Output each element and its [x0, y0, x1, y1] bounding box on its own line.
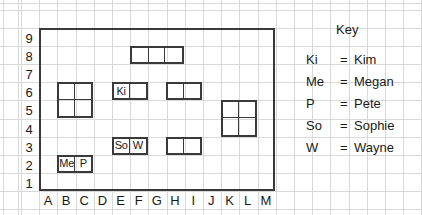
ship-cell[interactable] — [239, 118, 255, 134]
legend-name: Kim — [354, 52, 376, 67]
legend-entry-pete: P=Pete — [306, 96, 381, 114]
y-axis-label-9: 9 — [20, 31, 38, 46]
x-axis-label-J: J — [202, 193, 220, 208]
ship-cell[interactable] — [239, 102, 255, 118]
legend-name: Wayne — [354, 140, 394, 155]
legend-name: Pete — [354, 96, 381, 111]
legend-abbr: Ki — [306, 52, 340, 67]
ship-cell[interactable] — [168, 139, 184, 153]
legend-equals-sign: = — [340, 140, 354, 155]
ship-row6-hi[interactable] — [166, 82, 202, 100]
ship-cell[interactable] — [75, 100, 91, 116]
ship-cell[interactable] — [223, 102, 239, 118]
ship-cell[interactable]: P — [75, 157, 91, 171]
battleship-grid-worksheet: 987654321 ABCDEFGHIJKLM KiSoWMeP Key Ki=… — [0, 0, 422, 215]
legend-abbr: Me — [306, 74, 340, 89]
ship-row2-bc-megan-pete[interactable]: MeP — [57, 155, 93, 173]
y-axis-label-1: 1 — [20, 176, 38, 191]
legend-name: Megan — [354, 74, 394, 89]
ship-bc-56[interactable] — [57, 82, 93, 118]
legend-entry-megan: Me=Megan — [306, 74, 394, 92]
x-axis-label-L: L — [239, 193, 257, 208]
ship-cell[interactable] — [184, 84, 200, 98]
x-axis-label-H: H — [166, 193, 184, 208]
legend-abbr: P — [306, 96, 340, 111]
legend-entry-wayne: W=Wayne — [306, 140, 394, 158]
ship-cell[interactable] — [223, 118, 239, 134]
ship-cell[interactable] — [168, 84, 184, 98]
x-axis-label-F: F — [130, 193, 148, 208]
legend-abbr: W — [306, 140, 340, 155]
x-axis-label-M: M — [257, 193, 275, 208]
ship-row3-ef-sophie-wayne[interactable]: SoW — [112, 137, 148, 155]
ship-cell[interactable] — [59, 100, 75, 116]
legend-title: Key — [336, 22, 358, 37]
ship-kl-45[interactable] — [221, 100, 257, 136]
y-axis-label-5: 5 — [20, 103, 38, 118]
legend-abbr: So — [306, 118, 340, 133]
ship-cell[interactable] — [130, 84, 146, 98]
paper-gridline-top — [0, 3, 422, 4]
y-axis-label-6: 6 — [20, 85, 38, 100]
x-axis-label-E: E — [112, 193, 130, 208]
legend-equals-sign: = — [340, 96, 354, 111]
ship-row3-hi[interactable] — [166, 137, 202, 155]
x-axis-label-B: B — [57, 193, 75, 208]
ship-cell[interactable] — [165, 48, 182, 62]
x-axis-label-A: A — [39, 193, 57, 208]
paper-gridline-left — [3, 0, 4, 215]
ship-cell[interactable] — [75, 84, 91, 100]
ship-cell[interactable] — [184, 139, 200, 153]
legend-name: Sophie — [354, 118, 394, 133]
y-axis-label-4: 4 — [20, 122, 38, 137]
x-axis-label-G: G — [148, 193, 166, 208]
legend-entry-kim: Ki=Kim — [306, 52, 376, 70]
legend-equals-sign: = — [340, 118, 354, 133]
ship-row6-ef-kim[interactable]: Ki — [112, 82, 148, 100]
y-axis-label-7: 7 — [20, 67, 38, 82]
ship-cell[interactable]: So — [114, 139, 130, 153]
x-axis-label-D: D — [93, 193, 111, 208]
x-axis-label-K: K — [221, 193, 239, 208]
ship-cell[interactable]: Me — [59, 157, 75, 171]
ship-cell[interactable]: W — [130, 139, 146, 153]
legend-equals-sign: = — [340, 74, 354, 89]
legend-equals-sign: = — [340, 52, 354, 67]
ship-cell[interactable] — [132, 48, 149, 62]
y-axis-label-8: 8 — [20, 49, 38, 64]
x-axis-label-I: I — [184, 193, 202, 208]
ship-cell[interactable]: Ki — [114, 84, 130, 98]
y-axis-label-2: 2 — [20, 158, 38, 173]
legend-entry-sophie: So=Sophie — [306, 118, 394, 136]
ship-cell[interactable] — [149, 48, 166, 62]
ship-row8-fgh[interactable] — [130, 46, 184, 64]
ship-cell[interactable] — [59, 84, 75, 100]
y-axis-label-3: 3 — [20, 140, 38, 155]
x-axis-label-C: C — [75, 193, 93, 208]
